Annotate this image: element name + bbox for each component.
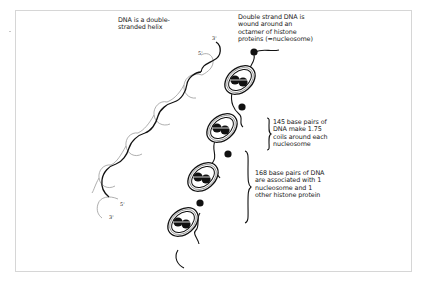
dna-helix-light-strand <box>92 54 213 218</box>
linker-histone <box>250 48 257 55</box>
histone-core <box>181 219 190 228</box>
brace-168-bp <box>245 151 251 223</box>
brace-145-bp <box>267 118 271 150</box>
nucleosome <box>162 202 203 242</box>
linker-histone <box>196 199 203 206</box>
histone-core <box>238 77 247 86</box>
nucleosome <box>219 60 260 100</box>
linker-histone <box>238 103 245 110</box>
histone-core <box>201 174 210 183</box>
histone-core <box>220 125 229 134</box>
nucleosome <box>182 157 223 197</box>
nucleosome <box>201 108 242 148</box>
dna-diagram <box>0 0 427 283</box>
linker-histone <box>224 150 231 157</box>
